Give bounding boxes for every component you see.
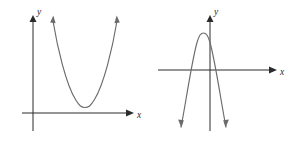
figure-container: y x y x — [0, 0, 297, 147]
x-axis-right — [158, 67, 277, 74]
parabola-curve-upward — [50, 16, 120, 108]
x-axis-label-left: x — [136, 110, 142, 120]
panel-upward-parabola: y x — [0, 0, 148, 147]
curve-arrow-right-icon — [223, 120, 229, 128]
curve-arrow-right-icon — [114, 16, 119, 24]
y-axis-label-right: y — [213, 7, 219, 17]
y-axis-left — [30, 15, 37, 131]
y-axis-right — [207, 15, 214, 131]
y-axis-arrow-icon — [207, 15, 214, 22]
curve-arrow-left-icon — [50, 16, 55, 24]
parabola-curve-downward — [178, 33, 229, 128]
x-axis-arrow-icon — [126, 110, 134, 117]
curve-arrow-left-icon — [178, 120, 184, 128]
y-axis-label-left: y — [36, 7, 42, 17]
x-axis-left — [22, 110, 134, 117]
panel-downward-parabola: y x — [148, 0, 297, 147]
y-axis-arrow-icon — [30, 15, 37, 22]
x-axis-label-right: x — [279, 67, 285, 77]
x-axis-arrow-icon — [269, 67, 277, 74]
